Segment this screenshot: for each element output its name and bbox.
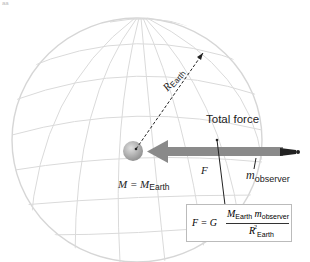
num-M-sub: Earth — [235, 213, 252, 220]
corner-label: aa — [2, 0, 9, 6]
num-m: m — [252, 208, 262, 219]
den-sup: 2 — [254, 224, 257, 230]
num-m-sub: observer — [262, 213, 289, 220]
gravity-formula-box: F = G MEarth mobserver R2Earth — [186, 204, 292, 242]
observer-mass-sub: observer — [255, 174, 290, 184]
earth-mass-label: M = MEarth — [118, 178, 170, 190]
observer-mass-main: m — [246, 168, 255, 182]
den-sub: Earth — [257, 231, 274, 238]
earth-mass-sub: Earth — [149, 182, 169, 192]
observer-mass-label: mobserver — [246, 168, 290, 183]
force-arrowhead — [147, 140, 168, 163]
formula-numerator: MEarth mobserver — [227, 208, 289, 219]
total-force-label: Total force — [206, 113, 259, 125]
gravity-diagram: aa Total force F mobserver M = MEarth RE… — [0, 0, 310, 262]
force-arrow-shaft — [163, 147, 283, 156]
fraction-bar — [226, 223, 289, 224]
earth-mass-main: M = M — [118, 178, 149, 190]
formula-lhs: F = G — [192, 217, 217, 228]
force-symbol: F — [201, 164, 208, 176]
observer-figure — [280, 148, 296, 156]
radius-arrow — [136, 53, 203, 149]
formula-denominator: R2Earth — [249, 225, 274, 236]
